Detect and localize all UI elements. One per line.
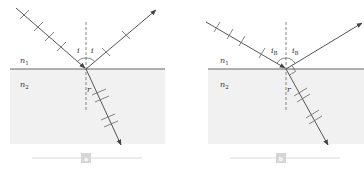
reflected-angle-label: iB (292, 46, 299, 56)
incident-angle-label: iB (271, 46, 278, 56)
lower-medium-region (208, 69, 364, 144)
caption-label: b (279, 155, 284, 162)
reflected-ray (86, 10, 156, 69)
reflected-angle-arc (86, 58, 95, 62)
incident-ray (16, 8, 85, 68)
reflected-ray (286, 23, 362, 69)
incident-wavefront-ticks (214, 22, 265, 58)
reflected-angle-label: i (91, 46, 94, 55)
panel-b-diagram: iB iB r n1 n2 b (206, 22, 364, 163)
medium-n1-label: n1 (220, 56, 229, 66)
incident-angle-arc (77, 58, 86, 62)
incident-angle-arc (277, 58, 286, 63)
incident-angle-label: i (77, 46, 80, 55)
medium-n1-label: n1 (20, 56, 29, 66)
caption-label: a (84, 155, 88, 162)
incident-ray (206, 22, 285, 68)
reflected-angle-arc (286, 58, 295, 63)
lower-medium-region (10, 69, 165, 144)
panel-a-diagram: i i r n1 n2 a (10, 8, 165, 163)
